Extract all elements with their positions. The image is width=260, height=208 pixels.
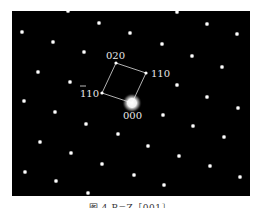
figure-caption: 图 4 B=Z［001］ bbox=[0, 201, 260, 208]
cell-corner-spot bbox=[144, 71, 147, 74]
unit-cell-outline bbox=[100, 61, 147, 103]
label-1bar10: 110 bbox=[80, 88, 99, 99]
diffraction-pattern-image: 020 110 110 000 bbox=[12, 11, 250, 196]
cell-corner-spot bbox=[114, 61, 117, 64]
spot-labels: 020 110 110 000 bbox=[80, 50, 170, 121]
label-020: 020 bbox=[106, 50, 125, 61]
cell-corner-spot bbox=[100, 91, 103, 94]
label-110: 110 bbox=[151, 68, 170, 79]
diffraction-pattern-svg: 020 110 110 000 bbox=[12, 11, 250, 196]
label-000: 000 bbox=[123, 110, 142, 121]
